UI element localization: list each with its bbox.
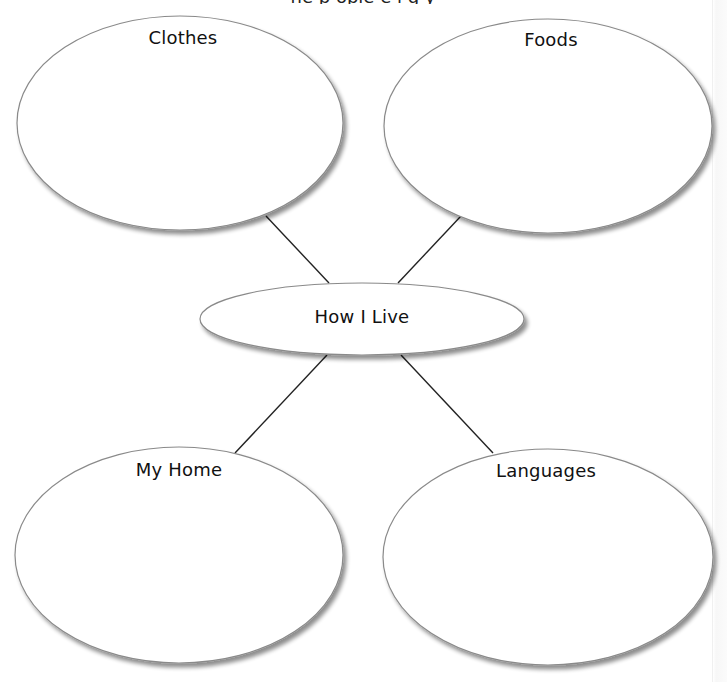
ellipse-languages[interactable] — [383, 449, 713, 665]
node-label-clothes: Clothes — [110, 27, 256, 48]
ellipse-foods[interactable] — [384, 19, 712, 233]
ellipse-clothes[interactable] — [17, 16, 343, 230]
connector-my-home — [235, 355, 327, 453]
connector-foods — [398, 216, 461, 283]
node-label-languages: Languages — [471, 460, 621, 481]
node-label-my-home: My Home — [104, 459, 254, 480]
connector-languages — [401, 355, 493, 453]
node-label-foods: Foods — [478, 29, 624, 50]
connector-clothes — [266, 216, 329, 283]
node-label-center: How I Live — [282, 306, 442, 327]
